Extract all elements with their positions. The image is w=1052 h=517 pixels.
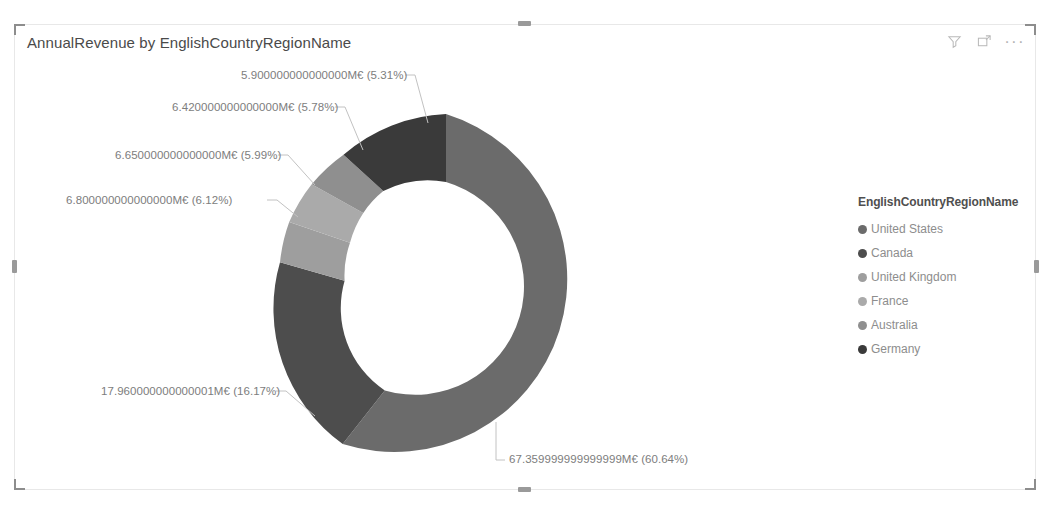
leader-united-states	[496, 422, 505, 460]
legend-item-france[interactable]: France	[858, 289, 1033, 313]
resize-handle-top-right[interactable]	[1025, 24, 1036, 35]
legend-item-united-states[interactable]: United States	[858, 217, 1033, 241]
resize-handle-bottom-center[interactable]	[518, 487, 531, 492]
legend-item-united-kingdom[interactable]: United Kingdom	[858, 265, 1033, 289]
legend-swatch-icon	[858, 225, 867, 234]
resize-handle-top-left[interactable]	[14, 24, 25, 35]
legend-item-label: Australia	[871, 318, 918, 332]
legend-swatch-icon	[858, 273, 867, 282]
legend-title: EnglishCountryRegionName	[858, 195, 1033, 209]
chart-legend: EnglishCountryRegionName United States C…	[858, 195, 1033, 361]
legend-item-australia[interactable]: Australia	[858, 313, 1033, 337]
donut-slices	[273, 114, 567, 452]
resize-handle-middle-right[interactable]	[1034, 260, 1039, 273]
legend-item-label: United Kingdom	[871, 270, 956, 284]
chart-plot-area: 5.900000000000000M€ (5.31%) 6.4200000000…	[15, 25, 1037, 489]
data-label-france: 6.650000000000000M€ (5.99%)	[115, 149, 281, 161]
data-label-australia: 6.420000000000000M€ (5.78%)	[172, 101, 338, 113]
legend-swatch-icon	[858, 345, 867, 354]
data-label-germany: 5.900000000000000M€ (5.31%)	[241, 69, 407, 81]
leader-germany	[405, 75, 428, 123]
resize-handle-middle-left[interactable]	[12, 260, 17, 273]
legend-item-canada[interactable]: Canada	[858, 241, 1033, 265]
legend-item-label: Canada	[871, 246, 913, 260]
legend-item-label: France	[871, 294, 908, 308]
data-label-united-states: 67.359999999999999M€ (60.64%)	[509, 453, 688, 465]
data-label-canada: 17.960000000000001M€ (16.17%)	[101, 385, 280, 397]
legend-swatch-icon	[858, 321, 867, 330]
legend-swatch-icon	[858, 249, 867, 258]
resize-handle-bottom-right[interactable]	[1025, 479, 1036, 490]
legend-item-germany[interactable]: Germany	[858, 337, 1033, 361]
legend-swatch-icon	[858, 297, 867, 306]
legend-item-label: Germany	[871, 342, 920, 356]
resize-handle-bottom-left[interactable]	[14, 479, 25, 490]
screenshot-root: AnnualRevenue by EnglishCountryRegionNam…	[0, 0, 1052, 517]
data-label-united-kingdom: 6.800000000000000M€ (6.12%)	[66, 194, 232, 206]
resize-handle-top-center[interactable]	[518, 21, 531, 26]
legend-item-label: United States	[871, 222, 943, 236]
leader-france	[278, 155, 315, 185]
chart-visual-container[interactable]: AnnualRevenue by EnglishCountryRegionNam…	[14, 24, 1036, 490]
